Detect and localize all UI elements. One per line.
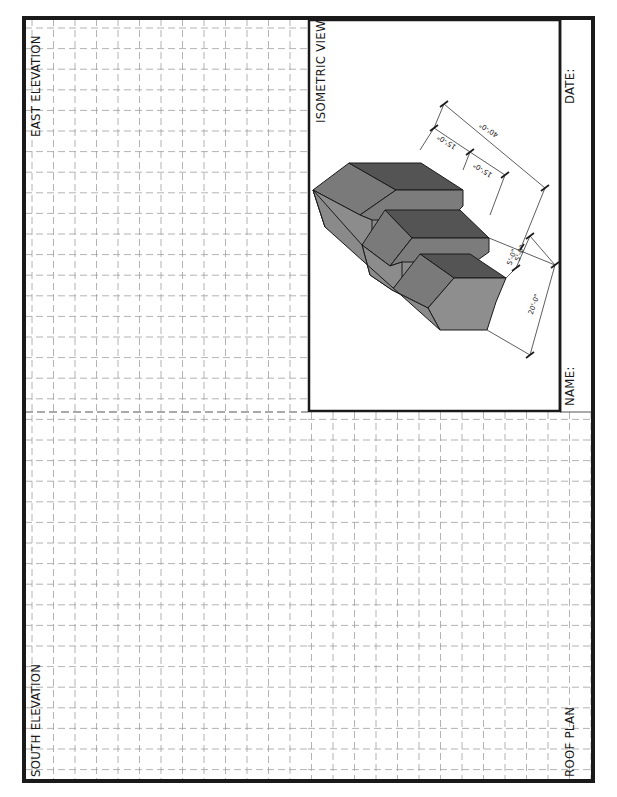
label-east-elevation: EAST ELEVATION (29, 35, 43, 137)
date-field-label: DATE: (563, 68, 577, 104)
label-isometric-view: ISOMETRIC VIEW (314, 20, 328, 123)
worksheet-canvas: 15'-0" 40'-0" 15'-0" 5'-0" 5'-0" 20'-0" (0, 0, 617, 797)
label-south-elevation: SOUTH ELEVATION (29, 664, 43, 777)
name-field-label: NAME: (563, 366, 577, 406)
label-roof-plan: ROOF PLAN (563, 707, 577, 777)
drawing-worksheet: 15'-0" 40'-0" 15'-0" 5'-0" 5'-0" 20'-0" … (0, 0, 617, 797)
